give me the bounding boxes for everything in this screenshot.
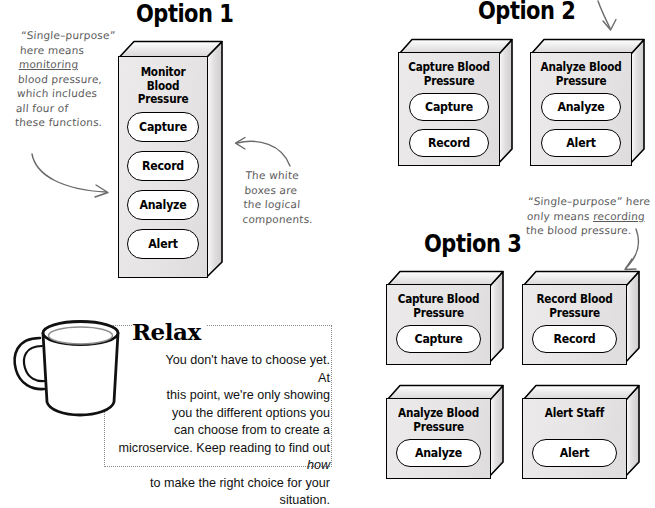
component-pill-analyze[interactable]: Analyze [396, 439, 481, 467]
box-front-face: Analyze Blood Pressure Analyze Alert [530, 52, 632, 166]
component-pill-label: Analyze [415, 446, 462, 460]
relax-body-line: can choose from to create a [106, 422, 330, 440]
relax-body-text: You don't have to choose yet. At this po… [106, 352, 330, 508]
box-title: Analyze Blood Pressure [541, 60, 622, 87]
annotation-line: these functions. [15, 116, 103, 128]
box-title-line-1: Capture Blood [398, 292, 480, 305]
service-box-analyze-blood-pressure-opt3[interactable]: Analyze Blood Pressure Analyze [386, 384, 504, 479]
component-pill-label: Capture [415, 332, 463, 346]
component-pill-capture[interactable]: Capture [396, 325, 481, 353]
arrow-white-boxes-note [234, 136, 294, 168]
annotation-line-underlined: monitoring [19, 58, 79, 70]
box-title-line-2: Pressure [556, 73, 607, 86]
box-title-line-1: Alert Staff [545, 406, 604, 419]
relax-body-line: microservice. Keep reading to find out h… [106, 440, 330, 475]
component-pill-analyze[interactable]: Analyze [541, 93, 621, 121]
arrow-recording-note-to-box [614, 228, 644, 272]
arrow-option-2-pointer [592, 0, 626, 34]
component-pill-label: Record [428, 136, 470, 150]
service-box-capture-blood-pressure-opt2[interactable]: Capture Blood Pressure Capture Record [398, 38, 513, 166]
component-pill-capture[interactable]: Capture [127, 112, 199, 142]
box-side-face [206, 41, 223, 279]
component-pill-alert[interactable]: Alert [541, 129, 621, 157]
box-title-line-2: Pressure [138, 92, 189, 105]
component-pill-alert[interactable]: Alert [532, 439, 617, 467]
component-pill-record[interactable]: Record [409, 129, 489, 157]
component-pill-analyze[interactable]: Analyze [127, 190, 199, 220]
annotation-line: which includes [17, 87, 98, 99]
service-box-analyze-blood-pressure-opt2[interactable]: Analyze Blood Pressure Analyze Alert [530, 38, 645, 166]
box-title: Alert Staff [545, 406, 604, 419]
service-box-alert-staff-opt3[interactable]: Alert Staff Alert [522, 384, 640, 479]
box-title: Capture Blood Pressure [408, 60, 490, 87]
relax-body-line: you the different options you [106, 405, 330, 423]
box-title-line-1: Record Blood [536, 292, 612, 305]
box-front-face: Analyze Blood Pressure Analyze [386, 398, 491, 479]
service-box-capture-blood-pressure-opt3[interactable]: Capture Blood Pressure Capture [386, 270, 504, 365]
box-front-face: Capture Blood Pressure Capture [386, 284, 491, 365]
box-front-face: Record Blood Pressure Record [522, 284, 627, 365]
annotation-line: “Single–purpose” here [528, 195, 651, 207]
relax-body-emphasis: how [307, 458, 330, 472]
box-title: Capture Blood Pressure [398, 292, 480, 319]
relax-body-line: You don't have to choose yet. At [106, 352, 330, 387]
component-pill-record[interactable]: Record [127, 151, 199, 181]
box-title-line-1: Analyze Blood [398, 406, 479, 419]
relax-body-line: to make the right choice for your situat… [106, 475, 330, 508]
component-pill-label: Record [553, 332, 595, 346]
box-title: Analyze Blood Pressure [398, 406, 479, 433]
annotation-line: The white [245, 169, 299, 181]
annotation-line: all four of [16, 102, 69, 114]
option-1-heading: Option 1 [136, 0, 233, 28]
arrow-left-note-to-box [30, 152, 116, 198]
annotation-line: boxes are [244, 184, 298, 196]
box-title: Record Blood Pressure [536, 292, 612, 319]
component-pill-label: Analyze [557, 100, 604, 114]
annotation-line: here means [20, 44, 85, 56]
component-pill-label: Alert [560, 446, 589, 460]
relax-body-line: this point, we're only showing [106, 387, 330, 405]
box-title-line-1: Analyze Blood [541, 60, 622, 73]
box-front-face: Alert Staff Alert [522, 398, 627, 479]
service-box-monitor-blood-pressure[interactable]: Monitor Blood Pressure Capture Record An… [118, 40, 223, 280]
component-pill-label: Capture [139, 120, 187, 134]
component-pill-label: Capture [425, 100, 473, 114]
annotation-line-underlined: recording [593, 210, 645, 222]
service-box-record-blood-pressure-opt3[interactable]: Record Blood Pressure Record [522, 270, 640, 365]
box-title-line-1: Capture Blood [408, 60, 490, 73]
component-pill-record[interactable]: Record [532, 325, 617, 353]
box-front-face: Capture Blood Pressure Capture Record [398, 52, 500, 166]
annotation-line: components. [242, 213, 313, 225]
box-title-line-2: Pressure [424, 73, 475, 86]
box-title-line-2: Pressure [413, 419, 464, 432]
option-3-heading: Option 3 [424, 230, 521, 258]
annotation-line: only means recording [527, 210, 646, 222]
box-front-face: Monitor Blood Pressure Capture Record An… [118, 56, 208, 278]
box-title: Monitor Blood Pressure [125, 65, 201, 105]
relax-title: Relax [132, 318, 206, 345]
annotation-white-boxes-logical-components: The white boxes are the logical componen… [242, 168, 338, 226]
option-2-heading: Option 2 [478, 0, 575, 25]
annotation-line: blood pressure, [18, 73, 103, 85]
box-title-line-1: Monitor Blood [141, 65, 186, 92]
component-pill-capture[interactable]: Capture [409, 93, 489, 121]
component-pill-label: Analyze [139, 198, 186, 212]
component-pill-label: Alert [566, 136, 595, 150]
component-pill-label: Record [142, 159, 184, 173]
box-title-line-2: Pressure [549, 305, 600, 318]
annotation-line: the logical [243, 198, 301, 210]
component-pill-label: Alert [148, 237, 177, 251]
annotation-single-purpose-monitoring: “Single–purpose” here means monitoring b… [14, 28, 125, 130]
annotation-line: “Single–purpose” [21, 29, 116, 41]
component-pill-alert[interactable]: Alert [127, 229, 199, 259]
box-title-line-2: Pressure [413, 305, 464, 318]
